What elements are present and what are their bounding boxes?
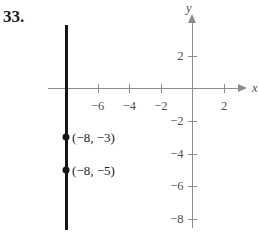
x-tick-mark [98, 84, 99, 93]
point-label: (−8, −5) [72, 164, 115, 177]
x-tick-mark [129, 84, 130, 93]
point-label: (−8, −3) [72, 131, 115, 144]
x-axis-arrow-icon [238, 84, 247, 92]
y-tick-label: −2 [170, 115, 183, 128]
x-axis-label: x [252, 82, 258, 95]
x-axis [48, 88, 241, 89]
y-tick-label: −6 [170, 180, 183, 193]
x-tick-mark [224, 84, 225, 93]
graph-figure: 33. y x −6−4−22 2−2−4−6−8 (−8, −3)(−8, −… [0, 0, 259, 238]
x-tick-label: −4 [123, 100, 136, 113]
y-axis-arrow-icon [188, 14, 196, 23]
y-tick-label: −8 [170, 213, 183, 226]
y-tick-label: 2 [177, 50, 183, 63]
y-tick-mark [188, 186, 197, 187]
y-tick-mark [188, 56, 197, 57]
x-tick-label: −2 [154, 100, 167, 113]
x-tick-mark [161, 84, 162, 93]
y-axis [192, 22, 193, 228]
y-tick-mark [188, 219, 197, 220]
y-tick-label: −4 [170, 147, 183, 160]
graph-line-x-equals-negative-8 [65, 25, 68, 230]
plot-point [63, 134, 70, 141]
coordinate-plane: y x −6−4−22 2−2−4−6−8 (−8, −3)(−8, −5) [0, 0, 259, 238]
plot-point [63, 167, 70, 174]
x-tick-label: −6 [91, 100, 104, 113]
y-axis-label: y [186, 2, 192, 15]
x-tick-label: 2 [221, 100, 227, 113]
y-tick-mark [188, 121, 197, 122]
y-tick-mark [188, 154, 197, 155]
